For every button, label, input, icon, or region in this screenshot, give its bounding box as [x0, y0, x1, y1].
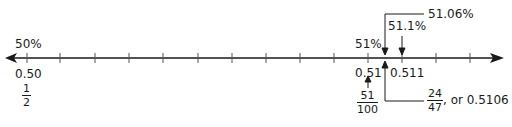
label-51-percent: 51% [355, 38, 382, 51]
label-or-0-5106: , or 0.5106 [443, 94, 509, 107]
label-0-50: 0.50 [15, 68, 42, 81]
fraction-denominator: 47 [427, 101, 443, 113]
label-0-511: 0.511 [390, 67, 424, 80]
fraction-denominator: 100 [357, 103, 378, 115]
fraction-one-half: 1 2 [22, 83, 31, 108]
label-51-1-percent: 51.1% [388, 20, 426, 33]
fraction-denominator: 2 [22, 96, 31, 108]
label-50-percent: 50% [15, 38, 42, 51]
label-0-51: 0.51 [355, 67, 382, 80]
fraction-numerator: 1 [22, 83, 31, 96]
fraction-numerator: 51 [357, 90, 378, 103]
fraction-numerator: 24 [427, 88, 443, 101]
label-51-06-percent: 51.06% [428, 8, 474, 21]
fraction-51-over-100: 51 100 [357, 90, 378, 115]
fraction-24-over-47: 24 47 [427, 88, 443, 113]
